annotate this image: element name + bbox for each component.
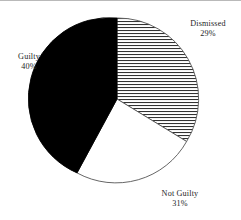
pie-label-guilty: Guilty 40% [4, 52, 54, 71]
pie-label-dismissed-percent: 29% [178, 29, 238, 39]
pie-label-guilty-percent: 40% [4, 62, 54, 72]
pie-label-not-guilty-name: Not Guilty [145, 189, 215, 199]
pie-chart: Dismissed 29% Guilty 40% Not Guilty 31% [0, 0, 241, 220]
pie-label-guilty-name: Guilty [4, 52, 54, 62]
pie-label-dismissed-name: Dismissed [178, 19, 238, 29]
pie-label-dismissed: Dismissed 29% [178, 19, 238, 38]
pie-label-not-guilty-percent: 31% [145, 199, 215, 209]
pie-label-not-guilty: Not Guilty 31% [145, 189, 215, 208]
